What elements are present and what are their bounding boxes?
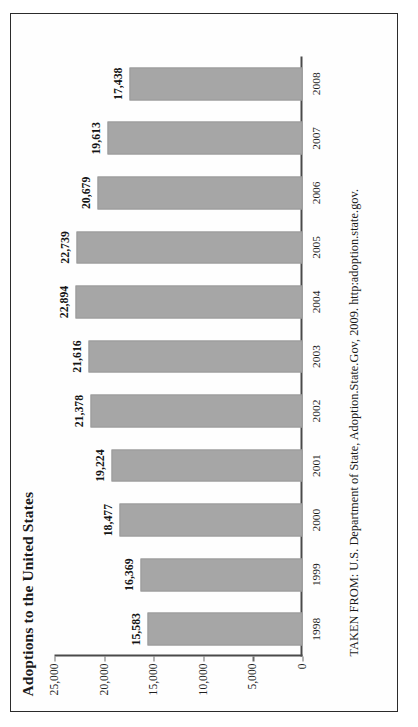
page-top-edge xyxy=(0,0,418,11)
category-label: 2003 xyxy=(309,345,321,368)
bar-2004 xyxy=(75,285,302,318)
axis-tick-label: 20,000 xyxy=(97,663,110,695)
bar-2000 xyxy=(119,503,302,536)
bar-group: 22,8942004 xyxy=(54,285,302,318)
chart-canvas: Adoptions to the United States 05,00010,… xyxy=(10,13,398,712)
category-label: 2001 xyxy=(309,454,321,477)
chart-title: Adoptions to the United States xyxy=(18,491,36,696)
category-label: 2005 xyxy=(309,236,321,259)
category-label: 1999 xyxy=(309,563,321,586)
bar-2003 xyxy=(88,340,302,373)
bar-2007 xyxy=(107,121,302,154)
bar-group: 21,6162003 xyxy=(54,340,302,373)
bar-group: 22,7392005 xyxy=(54,231,302,264)
axis-tick xyxy=(153,656,154,661)
bar-group: 15,5831998 xyxy=(54,612,302,645)
category-label: 2002 xyxy=(309,399,321,422)
bar-value-label: 20,679 xyxy=(78,176,93,208)
axis-tick-label: 25,000 xyxy=(48,663,61,695)
bar-2008 xyxy=(129,67,302,100)
bar-2005 xyxy=(76,231,302,264)
axis-tick xyxy=(54,656,55,661)
value-axis-line xyxy=(54,654,302,656)
bar-1999 xyxy=(140,558,302,591)
bar-group: 20,6792006 xyxy=(54,176,302,209)
category-label: 2008 xyxy=(309,72,321,95)
axis-tick xyxy=(252,656,253,661)
bar-value-label: 19,224 xyxy=(92,449,107,481)
axis-tick-label: 5,000 xyxy=(246,663,259,689)
axis-tick-label: 10,000 xyxy=(196,663,209,695)
category-label: 2000 xyxy=(309,508,321,531)
category-label: 2004 xyxy=(309,290,321,313)
bar-2006 xyxy=(97,176,302,209)
bar-value-label: 16,369 xyxy=(121,558,136,590)
bar-value-label: 21,616 xyxy=(69,340,84,372)
category-label: 2007 xyxy=(309,126,321,149)
source-attribution: TAKEN FROM: U.S. Department of State, Ad… xyxy=(346,188,361,656)
bar-group: 21,3782002 xyxy=(54,394,302,427)
bar-value-label: 19,613 xyxy=(88,122,103,154)
bar-2002 xyxy=(90,394,302,427)
axis-tick xyxy=(302,656,303,661)
bar-value-label: 22,894 xyxy=(56,285,71,317)
category-label: 2006 xyxy=(309,181,321,204)
bar-group: 17,4382008 xyxy=(54,67,302,100)
bar-group: 19,6132007 xyxy=(54,121,302,154)
bar-value-label: 22,739 xyxy=(57,231,72,263)
plot-area: 05,00010,00015,00020,00025,000 15,583199… xyxy=(54,56,302,656)
bar-value-label: 18,477 xyxy=(100,503,115,535)
bar-value-label: 15,583 xyxy=(128,613,143,645)
axis-tick xyxy=(104,656,105,661)
scanned-page: Adoptions to the United States 05,00010,… xyxy=(0,0,418,727)
bar-value-label: 21,378 xyxy=(71,394,86,426)
bar-1998 xyxy=(147,612,302,645)
bar-group: 18,4772000 xyxy=(54,503,302,536)
rotated-figure-wrapper: Adoptions to the United States 05,00010,… xyxy=(10,13,398,712)
bar-group: 16,3691999 xyxy=(54,558,302,591)
axis-tick-label: 15,000 xyxy=(147,663,160,695)
category-label: 1998 xyxy=(309,617,321,640)
bar-value-label: 17,438 xyxy=(110,67,125,99)
axis-tick xyxy=(203,656,204,661)
axis-tick-label: 0 xyxy=(296,663,309,669)
bar-group: 19,2242001 xyxy=(54,449,302,482)
bar-2001 xyxy=(111,449,302,482)
